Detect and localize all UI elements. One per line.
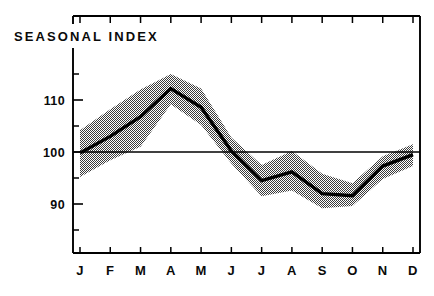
seasonal-index-chart: SEASONAL INDEX 90100110 JFMAMJJASOND (0, 0, 434, 296)
x-axis-label-february: F (106, 263, 114, 278)
confidence-band (80, 74, 413, 208)
x-axis-label-june: J (228, 263, 236, 278)
y-axis-tick-labels: 90100110 (43, 94, 65, 212)
x-axis-label-april: A (166, 263, 176, 278)
x-axis-label-september: S (318, 263, 327, 278)
x-axis-label-january: J (76, 263, 84, 278)
y-axis-label: 90 (50, 198, 65, 212)
x-axis-label-august: A (287, 263, 297, 278)
x-axis-label-may: M (195, 263, 206, 278)
x-axis-label-march: M (135, 263, 146, 278)
chart-canvas: 90100110 JFMAMJJASOND (0, 0, 434, 296)
x-axis-label-december: D (408, 263, 418, 278)
y-axis-label: 100 (43, 146, 65, 160)
x-axis-label-november: N (378, 263, 388, 278)
y-axis-label: 110 (44, 94, 65, 108)
x-axis-label-october: O (347, 263, 358, 278)
x-axis-label-july: J (258, 263, 266, 278)
x-axis-tick-labels: JFMAMJJASOND (76, 263, 418, 278)
